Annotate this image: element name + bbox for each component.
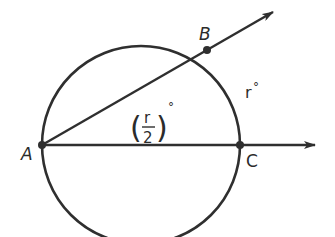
point-a <box>38 141 46 149</box>
inscribed-angle-diagram: A B C r ° ( r 2 ) ° <box>0 0 335 237</box>
angle-close-paren: ) <box>156 110 168 145</box>
label-c: C <box>246 151 258 171</box>
angle-open-paren: ( <box>130 110 142 145</box>
arc-measure-degree: ° <box>253 80 259 94</box>
angle-denominator: 2 <box>143 129 153 147</box>
point-c <box>236 141 244 149</box>
angle-numerator: r <box>144 109 151 127</box>
arc-measure-variable: r <box>245 83 252 102</box>
point-b <box>203 46 211 54</box>
label-a: A <box>20 144 33 164</box>
angle-degree: ° <box>168 100 174 114</box>
angle-measure: ( r 2 ) ° <box>130 100 174 147</box>
label-b: B <box>199 24 211 44</box>
